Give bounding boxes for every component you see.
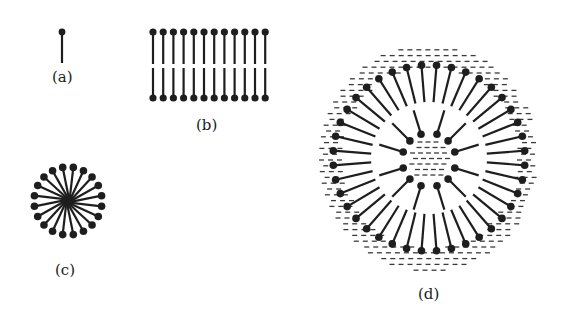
lipid-tail bbox=[340, 179, 375, 193]
lipid-head bbox=[352, 215, 360, 223]
lipid-head bbox=[329, 161, 337, 169]
lipid-head bbox=[433, 130, 441, 138]
lipid-head bbox=[211, 28, 218, 35]
lipid-head bbox=[448, 64, 456, 72]
lipid-head bbox=[31, 192, 39, 200]
lipid-head bbox=[337, 119, 345, 127]
lipid-head bbox=[262, 28, 269, 35]
lipid-tail bbox=[333, 162, 371, 165]
lipid-head bbox=[444, 137, 452, 145]
lipid-head bbox=[451, 148, 459, 156]
lipid-head bbox=[170, 94, 177, 101]
lipid-head bbox=[388, 240, 396, 248]
lipid-head bbox=[498, 215, 506, 223]
lipid-head bbox=[94, 213, 102, 221]
lipid-head bbox=[40, 173, 48, 181]
liposome bbox=[319, 50, 537, 270]
label-c: (c) bbox=[55, 263, 75, 278]
lipid-head bbox=[34, 213, 42, 221]
lipid-head bbox=[211, 94, 218, 101]
lipid-head bbox=[363, 225, 371, 233]
lipid-head bbox=[332, 176, 340, 184]
lipid-tail bbox=[336, 136, 373, 145]
lipid-head bbox=[160, 94, 167, 101]
lipid-head bbox=[98, 203, 106, 211]
lipid-head bbox=[399, 148, 407, 156]
lipid-head bbox=[59, 29, 66, 36]
lipid-head bbox=[433, 247, 441, 255]
label-a: (a) bbox=[52, 70, 73, 85]
lipid-head bbox=[488, 225, 496, 233]
lipid-head bbox=[170, 28, 177, 35]
lipid-tail bbox=[392, 210, 407, 244]
lipid-head bbox=[231, 94, 238, 101]
lipid-tail bbox=[392, 72, 407, 106]
lipid-head bbox=[417, 182, 425, 190]
lipid-tail bbox=[421, 65, 424, 102]
lipid-head bbox=[98, 192, 106, 200]
lipid-head bbox=[403, 245, 411, 253]
lipid-head bbox=[462, 68, 470, 76]
lipid-tail bbox=[451, 72, 466, 106]
lipid-head bbox=[180, 94, 187, 101]
lipid-tail bbox=[443, 212, 452, 248]
lipid-tail bbox=[434, 65, 437, 102]
lipid-head bbox=[34, 182, 42, 190]
lipid-tail bbox=[434, 214, 437, 251]
lipid-head bbox=[337, 190, 345, 198]
lipid-head bbox=[329, 147, 337, 155]
lipid-head bbox=[70, 164, 78, 172]
lipid-head bbox=[475, 233, 483, 241]
lipid-head bbox=[221, 28, 228, 35]
lipid-head bbox=[375, 75, 383, 83]
lipid-head bbox=[514, 119, 522, 127]
lipid-head bbox=[149, 94, 156, 101]
lipid-head bbox=[59, 231, 67, 239]
lipid-head bbox=[31, 203, 39, 211]
lipid-head bbox=[251, 28, 258, 35]
lipid-head bbox=[507, 203, 515, 211]
lipid-head bbox=[363, 83, 371, 91]
lipid-head bbox=[49, 167, 57, 175]
lipid-head bbox=[70, 231, 78, 239]
lipid-head bbox=[262, 94, 269, 101]
lipid-tail bbox=[340, 122, 375, 136]
lipid-bilayer bbox=[149, 28, 268, 101]
lipid-head bbox=[221, 94, 228, 101]
lipid-tail bbox=[485, 136, 522, 145]
lipid-head bbox=[180, 28, 187, 35]
lipid-head bbox=[80, 227, 88, 235]
lipid-head bbox=[375, 233, 383, 241]
lipid-head bbox=[462, 240, 470, 248]
lipid-tail bbox=[487, 151, 525, 154]
lipid-tail bbox=[336, 171, 373, 180]
lipid-head bbox=[231, 28, 238, 35]
lipid-head bbox=[406, 175, 414, 183]
lipid-head bbox=[451, 164, 459, 172]
lipid-head bbox=[488, 83, 496, 91]
lipid-head bbox=[388, 68, 396, 76]
lipid-tail bbox=[451, 210, 466, 244]
lipid-tail bbox=[487, 162, 525, 165]
lipid-head bbox=[433, 61, 441, 69]
lipid-tail bbox=[483, 179, 518, 193]
lipid-head bbox=[417, 130, 425, 138]
lipid-tail bbox=[333, 151, 371, 154]
lipid-tail bbox=[443, 68, 452, 104]
lipid-head bbox=[59, 164, 67, 172]
lipid-head bbox=[433, 182, 441, 190]
lipid-head bbox=[514, 190, 522, 198]
lipid-head bbox=[343, 203, 351, 211]
lipid-head bbox=[448, 245, 456, 253]
lipid-head bbox=[418, 61, 426, 69]
lipid-head bbox=[49, 227, 57, 235]
lipid-head bbox=[88, 221, 96, 229]
lipid-head bbox=[352, 94, 360, 102]
lipid-head bbox=[190, 94, 197, 101]
lipid-head bbox=[251, 94, 258, 101]
lipid-head bbox=[418, 247, 426, 255]
lipid-head bbox=[519, 132, 527, 140]
lipid-head bbox=[475, 75, 483, 83]
lipid-head bbox=[200, 28, 207, 35]
lipid-head bbox=[521, 161, 529, 169]
